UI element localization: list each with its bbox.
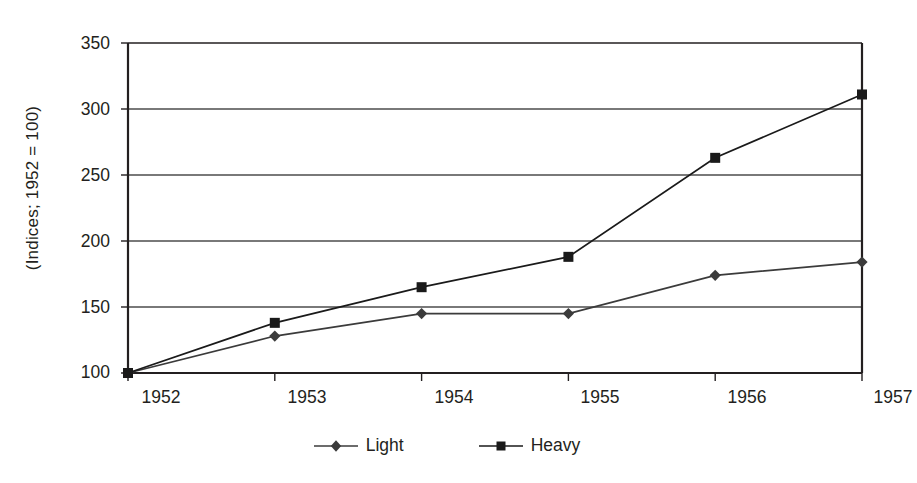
data-point-heavy-1954: [417, 282, 427, 292]
data-point-heavy-1955: [563, 252, 573, 262]
data-point-light-1956: [710, 270, 721, 281]
legend-label-light: Light: [366, 437, 404, 455]
data-series-group: [122, 89, 867, 378]
axis-ticks: [121, 43, 862, 381]
data-point-light-1953: [269, 330, 280, 341]
data-point-heavy-1953: [270, 318, 280, 328]
legend-label-heavy: Heavy: [531, 437, 581, 455]
series-line-light: [128, 262, 862, 373]
data-point-heavy-1957: [857, 89, 867, 99]
data-point-light-1955: [563, 308, 574, 319]
plot-frame: [128, 43, 862, 373]
data-point-light-1957: [856, 257, 867, 268]
square-marker-icon: [478, 438, 524, 454]
legend-item-heavy[interactable]: Heavy: [478, 437, 581, 455]
data-point-heavy-1952: [123, 368, 133, 378]
data-point-heavy-1956: [710, 153, 720, 163]
series-line-heavy: [128, 94, 862, 373]
diamond-marker-icon: [313, 438, 359, 454]
data-point-light-1954: [416, 308, 427, 319]
legend-item-light[interactable]: Light: [313, 437, 404, 455]
gridlines: [128, 109, 862, 307]
